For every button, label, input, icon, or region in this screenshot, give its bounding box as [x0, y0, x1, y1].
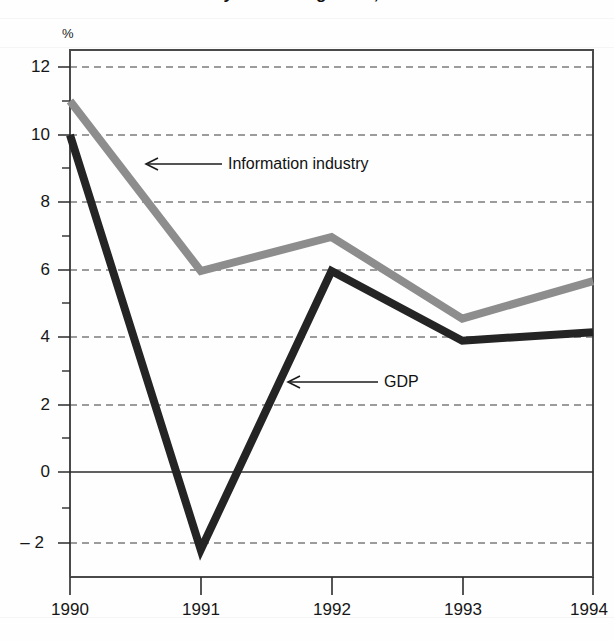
y-axis-label-4: 4 — [2, 328, 50, 345]
y-axis-label-0: 0 — [2, 463, 50, 480]
y-axis-label-6: 6 — [2, 261, 50, 278]
x-axis-label-1992: 1992 — [297, 601, 367, 618]
y-axis-minor-ticks — [62, 101, 70, 508]
x-axis-label-1994: 1994 — [554, 601, 614, 618]
annotation-leader-information-industry — [146, 158, 222, 170]
y-axis-label-neg2: – 2 — [0, 534, 44, 551]
x-axis-ticks — [70, 577, 593, 595]
y-axis-label-2: 2 — [2, 396, 50, 413]
x-axis-label-1991: 1991 — [166, 601, 236, 618]
series-information-industry — [70, 101, 593, 319]
y-axis-label-8: 8 — [2, 193, 50, 210]
y-axis-label-12: 12 — [2, 58, 50, 75]
annotation-leader-gdp — [288, 376, 378, 388]
x-axis-label-1990: 1990 — [35, 601, 105, 618]
series-label-gdp: GDP — [384, 374, 419, 390]
y-axis-label-10: 10 — [2, 126, 50, 143]
x-axis-label-1993: 1993 — [428, 601, 498, 618]
chart-plot-area — [0, 0, 614, 641]
plot-frame — [70, 50, 593, 577]
series-label-information-industry: Information industry — [228, 156, 369, 172]
chart-figure: Information industry and GDP growth, 199… — [0, 0, 614, 641]
